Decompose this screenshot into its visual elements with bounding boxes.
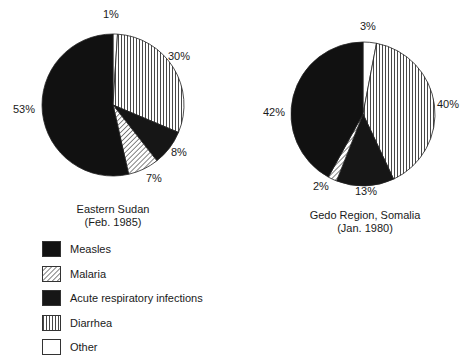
- legend-label: Malaria: [70, 268, 106, 280]
- caption-left: Eastern Sudan (Feb. 1985): [58, 203, 168, 229]
- caption-left-line1: Eastern Sudan: [58, 203, 168, 216]
- legend-item-ari: Acute respiratory infections: [42, 286, 203, 311]
- caption-left-line2: (Feb. 1985): [58, 216, 168, 229]
- swatch-diagonal-hatch-icon: [42, 266, 61, 282]
- label-left-measles: 53%: [13, 103, 35, 115]
- label-right-other: 3%: [360, 20, 376, 32]
- legend-item-diarrhea: Diarrhea: [42, 311, 203, 336]
- label-left-malaria: 7%: [146, 172, 162, 184]
- legend-item-other: Other: [42, 335, 203, 360]
- legend-item-malaria: Malaria: [42, 262, 203, 287]
- legend-label: Acute respiratory infections: [70, 292, 203, 304]
- swatch-solid-black-icon: [42, 290, 61, 306]
- label-right-malaria: 2%: [313, 180, 329, 192]
- swatch-white-icon: [42, 339, 61, 355]
- legend-label: Measles: [70, 243, 111, 255]
- label-left-ari: 8%: [171, 146, 187, 158]
- label-left-other: 1%: [103, 8, 119, 20]
- caption-right: Gedo Region, Somalia (Jan. 1980): [290, 209, 440, 235]
- swatch-solid-black-icon: [42, 241, 61, 257]
- legend-item-measles: Measles: [42, 237, 203, 262]
- legend-label: Diarrhea: [70, 317, 112, 329]
- swatch-vertical-lines-icon: [42, 315, 61, 331]
- label-right-measles: 42%: [263, 106, 285, 118]
- label-right-diarrhea: 40%: [437, 98, 459, 110]
- label-right-ari: 13%: [355, 185, 377, 197]
- caption-right-line1: Gedo Region, Somalia: [290, 209, 440, 222]
- caption-right-line2: (Jan. 1980): [290, 222, 440, 235]
- legend-label: Other: [70, 341, 98, 353]
- pie-eastern-sudan: [42, 34, 184, 176]
- pie-gedo-somalia: [291, 42, 435, 186]
- legend: Measles Malaria Acute respiratory infect…: [42, 237, 203, 360]
- label-left-diarrhea: 30%: [168, 50, 190, 62]
